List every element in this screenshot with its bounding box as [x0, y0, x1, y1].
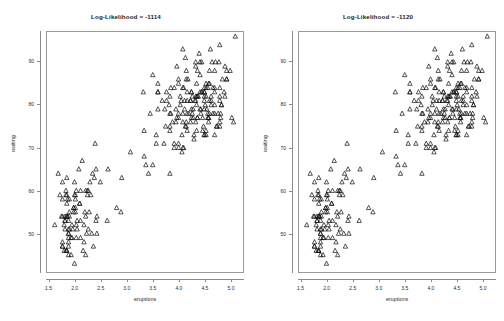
data-point: [470, 98, 474, 102]
data-point: [181, 47, 185, 51]
scatter-points-left: [47, 32, 243, 272]
plot-panel-right: Log-Likelihood = -1120 eruptions waiting…: [252, 0, 504, 321]
data-point: [90, 231, 94, 235]
data-point: [206, 120, 210, 124]
data-point: [78, 188, 82, 192]
data-point: [78, 235, 82, 239]
data-point: [446, 81, 450, 85]
data-point: [342, 231, 346, 235]
plot-area-left: [46, 31, 244, 273]
data-point: [218, 85, 222, 89]
data-point: [440, 98, 444, 102]
data-point: [339, 210, 343, 214]
x-axis-tick-label: 5.0: [227, 285, 234, 291]
data-point: [452, 115, 456, 119]
data-point: [65, 175, 69, 179]
data-point: [224, 77, 228, 81]
y-axis-tick: [37, 104, 40, 105]
data-point: [222, 90, 226, 94]
data-point: [164, 98, 168, 102]
data-point: [77, 167, 81, 171]
data-point: [163, 124, 167, 128]
data-point: [160, 98, 164, 102]
data-point: [95, 214, 99, 218]
data-point: [464, 102, 468, 106]
data-point: [167, 102, 171, 106]
x-axis-tick: [483, 279, 484, 282]
data-point: [314, 222, 318, 226]
data-point: [114, 205, 118, 209]
data-point: [464, 132, 468, 136]
data-point: [60, 197, 64, 201]
x-axis-tick: [153, 279, 154, 282]
data-point: [233, 34, 237, 38]
data-point: [231, 120, 235, 124]
y-axis-tick: [37, 234, 40, 235]
x-axis-tick-label: 5.0: [479, 285, 486, 291]
data-point: [60, 244, 64, 248]
data-point: [142, 128, 146, 132]
data-point: [329, 201, 333, 205]
data-point: [403, 162, 407, 166]
x-axis-tick: [379, 279, 380, 282]
data-point: [442, 111, 446, 115]
data-point: [416, 90, 420, 94]
data-point: [212, 132, 216, 136]
data-point: [398, 171, 402, 175]
data-point: [441, 90, 445, 94]
data-point: [344, 175, 348, 179]
data-point: [88, 180, 92, 184]
y-axis-tick-label: 60: [280, 188, 286, 194]
data-point: [449, 51, 453, 55]
y-axis-tick-label: 70: [28, 145, 34, 151]
y-axis-line-right: [292, 31, 293, 273]
data-point: [75, 227, 79, 231]
data-point: [212, 102, 216, 106]
data-point: [318, 244, 322, 248]
data-point: [424, 145, 428, 149]
data-point: [471, 102, 475, 106]
data-point: [151, 72, 155, 76]
data-point: [462, 60, 466, 64]
data-point: [420, 128, 424, 132]
x-axis-line-right: [298, 279, 496, 280]
data-point: [74, 235, 78, 239]
data-point: [444, 137, 448, 141]
data-point: [426, 107, 430, 111]
data-point: [180, 150, 184, 154]
data-point: [453, 124, 457, 128]
data-point: [421, 85, 425, 89]
data-point: [194, 81, 198, 85]
data-point: [174, 120, 178, 124]
y-axis-tick-label: 70: [280, 145, 286, 151]
x-axis-tick-label: 4.5: [201, 285, 208, 291]
y-axis-tick: [37, 61, 40, 62]
data-point: [210, 60, 214, 64]
data-point: [90, 171, 94, 175]
data-point: [446, 128, 450, 132]
data-point: [218, 98, 222, 102]
x-axis-tick-label: 2.0: [71, 285, 78, 291]
data-point: [335, 210, 339, 214]
data-point: [416, 98, 420, 102]
data-point: [83, 252, 87, 256]
data-point: [230, 115, 234, 119]
data-point: [335, 214, 339, 218]
data-point: [83, 210, 87, 214]
data-point: [218, 115, 222, 119]
data-point: [93, 141, 97, 145]
data-point: [408, 90, 412, 94]
x-axis-title-left: eruptions: [46, 296, 244, 302]
data-point: [148, 111, 152, 115]
data-point: [346, 218, 350, 222]
data-point: [317, 201, 321, 205]
data-point: [330, 235, 334, 239]
data-point: [182, 107, 186, 111]
data-point: [188, 120, 192, 124]
data-point: [94, 167, 98, 171]
data-point: [347, 231, 351, 235]
data-point: [317, 175, 321, 179]
y-axis-tick: [289, 234, 292, 235]
data-point: [185, 128, 189, 132]
y-axis-tick: [37, 191, 40, 192]
